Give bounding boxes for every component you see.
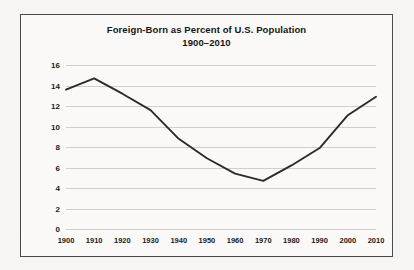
foreign-born-percent-polyline (66, 78, 376, 180)
y-axis-tick-label: 0 (56, 225, 60, 234)
y-axis-tick-label: 8 (56, 143, 60, 152)
y-axis-tick-label: 6 (56, 163, 60, 172)
y-axis-tick-label: 12 (51, 102, 60, 111)
x-axis-tick-label: 2000 (339, 236, 356, 245)
chart-frame: Foreign-Born as Percent of U.S. Populati… (20, 14, 393, 257)
y-axis-tick-label: 14 (51, 81, 60, 90)
gridline (66, 229, 376, 230)
chart-subtitle: 1900–2010 (21, 36, 392, 49)
y-axis-tick-label: 10 (51, 122, 60, 131)
y-axis-tick-label: 16 (51, 61, 60, 70)
x-axis-tick-label: 2010 (368, 236, 385, 245)
y-axis-tick-label: 2 (56, 204, 60, 213)
x-axis-tick-label: 1940 (170, 236, 187, 245)
x-axis-tick-label: 1950 (199, 236, 216, 245)
x-axis-tick-label: 1900 (58, 236, 75, 245)
x-axis-tick-label: 1930 (142, 236, 159, 245)
x-axis-tick-label: 1910 (86, 236, 103, 245)
data-series-line (66, 65, 376, 229)
x-axis-tick-label: 1980 (283, 236, 300, 245)
x-axis-tick-label: 1920 (114, 236, 131, 245)
plot-area: 0246810121416 19001910192019301940195019… (66, 65, 376, 229)
x-axis-tick-label: 1990 (311, 236, 328, 245)
x-axis-tick-label: 1970 (255, 236, 272, 245)
chart-title-block: Foreign-Born as Percent of U.S. Populati… (21, 23, 392, 49)
y-axis-tick-label: 4 (56, 184, 60, 193)
x-axis-tick-label: 1960 (227, 236, 244, 245)
page-title: Foreign-Born as Percent of U.S. Populati… (21, 23, 392, 36)
